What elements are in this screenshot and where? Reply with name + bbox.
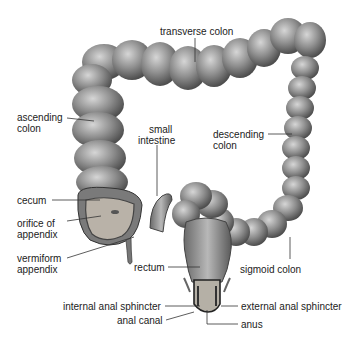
label-small-intestine-line2: intestine <box>138 135 175 146</box>
label-orifice-of-appendix: orifice of appendix <box>17 218 58 240</box>
label-descending-colon: descending colon <box>213 129 264 151</box>
label-rectum: rectum <box>134 262 165 273</box>
label-descending-colon-line1: descending <box>213 129 264 140</box>
label-transverse-colon: transverse colon <box>160 26 233 37</box>
label-anus: anus <box>241 319 263 330</box>
label-cecum: cecum <box>17 195 46 206</box>
label-ascending-colon: ascending colon <box>17 112 63 134</box>
label-vermiform-appendix: vermiform appendix <box>17 253 61 275</box>
label-anal-canal: anal canal <box>117 315 163 326</box>
label-small-intestine: small intestine <box>138 124 175 146</box>
label-vermiform-line1: vermiform <box>17 253 61 264</box>
small-intestine-shape <box>150 194 172 232</box>
label-external-anal-sphincter: external anal sphincter <box>241 301 342 312</box>
label-ascending-colon-line2: colon <box>17 123 63 134</box>
label-vermiform-line2: appendix <box>17 264 61 275</box>
label-ascending-colon-line1: ascending <box>17 112 63 123</box>
label-orifice-line1: orifice of <box>17 218 58 229</box>
label-internal-anal-sphincter: internal anal sphincter <box>63 301 161 312</box>
cecum-shape <box>78 187 142 264</box>
colon-illustration <box>0 0 349 337</box>
rectum-shape <box>184 218 231 312</box>
label-small-intestine-line1: small <box>138 124 175 135</box>
label-sigmoid-colon: sigmoid colon <box>240 264 301 275</box>
label-orifice-line2: appendix <box>17 229 58 240</box>
descending-colon-shape <box>282 56 319 200</box>
colon-diagram: transverse colon ascending colon small i… <box>0 0 349 337</box>
label-descending-colon-line2: colon <box>213 140 264 151</box>
